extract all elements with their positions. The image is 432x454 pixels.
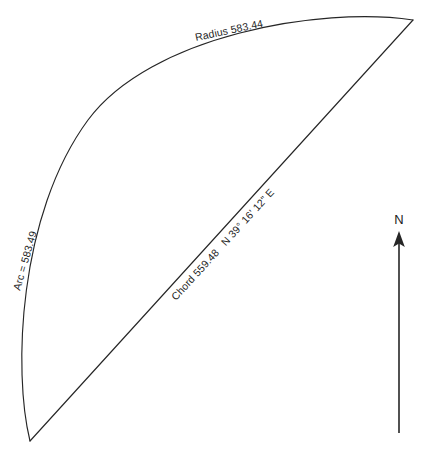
arc-label: Arc = 583.49 (10, 230, 38, 292)
north-label: N (394, 212, 403, 227)
radius-label: Radius 583.44 (194, 17, 264, 43)
arc-curve (22, 17, 413, 441)
chord-label: Chord 559.48 N 39° 16' 12" E (169, 186, 277, 302)
survey-curve-diagram: Radius 583.44 Arc = 583.49 Chord 559.48 … (0, 0, 432, 454)
chord-line (30, 20, 413, 441)
